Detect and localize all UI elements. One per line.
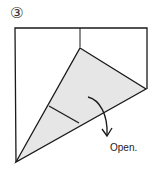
instruction-label: Open. [110, 142, 137, 153]
